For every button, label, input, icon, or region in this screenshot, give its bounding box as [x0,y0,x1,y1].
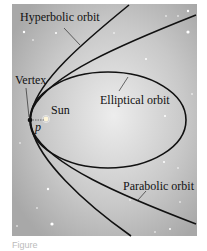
label-sun: Sun [51,103,70,117]
label-vertex: Vertex [15,73,46,87]
label-elliptical-orbit: Elliptical orbit [100,93,170,107]
figure-caption: Figure [12,240,38,250]
label-parabolic-orbit: Parabolic orbit [123,179,195,193]
orbits-diagram: Hyperbolic orbit Elliptical orbit Parabo… [0,0,207,251]
label-hyperbolic-orbit: Hyperbolic orbit [20,10,100,24]
label-p: p [34,120,41,134]
